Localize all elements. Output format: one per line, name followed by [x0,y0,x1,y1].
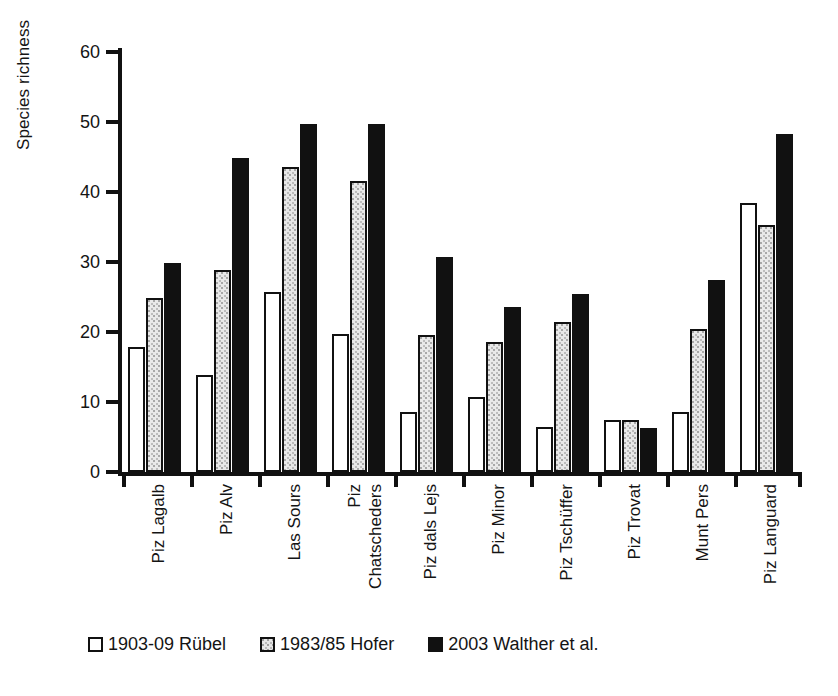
x-category-label-line: Piz dals Lejs [421,484,440,579]
legend-item[interactable]: 1903-09 Rübel [88,634,226,655]
bar [690,329,707,473]
bar [740,203,757,473]
x-tick-mark [394,476,398,487]
legend-item[interactable]: 1983/85 Hofer [260,634,394,655]
x-category-label-line: Piz Alv [217,484,236,535]
bar-group [122,52,190,472]
bar [776,134,793,472]
bar [368,124,385,472]
bar [536,427,553,472]
bar [418,335,435,472]
bar-group [598,52,666,472]
bar [128,347,145,472]
bar [350,181,367,472]
bar-group [462,52,530,472]
bar-groups [122,52,802,472]
y-tick-label-50: 50 [48,112,100,133]
bar-group [734,52,802,472]
x-tick-mark [598,476,602,487]
x-category-label: Las Sours [284,484,305,614]
legend-label: 1903-09 Rübel [108,634,226,655]
bar [400,412,417,472]
bar [758,225,775,472]
x-category-label-line: Chatscheders [365,484,386,614]
legend-label: 2003 Walther et al. [448,634,598,655]
x-category-label: Piz Languard [760,484,781,614]
bar [146,298,163,472]
x-category-label: Piz Tschüffer [556,484,577,614]
legend-swatch-icon [88,637,103,652]
bar [604,420,621,472]
x-category-label-line: Piz Minor [489,484,508,555]
bar [486,342,503,472]
bar [708,280,725,472]
x-tick-mark [734,476,738,487]
x-tick-mark [326,476,330,487]
legend-label: 1983/85 Hofer [280,634,394,655]
x-category-label-line: Piz Tschüffer [557,484,576,581]
bar [572,294,589,473]
y-tick-label-60: 60 [48,42,100,63]
x-category-label-line: Piz [345,484,364,508]
bar-group [394,52,462,472]
y-tick-label-30: 30 [48,252,100,273]
y-tick-label-0: 0 [48,462,100,483]
bar [554,322,571,473]
x-tick-mark [190,476,194,487]
bar [504,307,521,472]
x-category-label-line: Piz Languard [761,484,780,584]
x-tick-mark [798,476,802,487]
bar [282,167,299,472]
bar [264,292,281,472]
x-category-label-line: Las Sours [285,484,304,561]
x-axis-category-labels: Piz LagalbPiz AlvLas SoursPizChatscheder… [122,492,802,617]
bar-group [258,52,326,472]
x-category-label-line: Munt Pers [693,484,712,561]
x-tick-mark [666,476,670,487]
x-category-label: PizChatscheders [344,484,386,614]
x-tick-mark [258,476,262,487]
bar [672,412,689,472]
bar [164,263,181,472]
bar [640,428,657,472]
x-category-label-line: Piz Trovat [625,484,644,560]
bar-group [326,52,394,472]
bar [196,375,213,472]
bar-chart: Species richness 0102030405060 Piz Lagal… [0,0,838,696]
bar-group [666,52,734,472]
chart-legend: 1903-09 Rübel1983/85 Hofer2003 Walther e… [88,634,599,655]
x-category-label: Munt Pers [692,484,713,614]
x-category-label: Piz Trovat [624,484,645,614]
x-category-label: Piz Minor [488,484,509,614]
legend-swatch-icon [428,637,443,652]
bar-group [530,52,598,472]
x-category-label-line: Piz Lagalb [149,484,168,563]
bar [622,420,639,472]
x-tick-mark [122,476,126,487]
bar [300,124,317,472]
x-category-label: Piz Alv [216,484,237,614]
y-tick-label-20: 20 [48,322,100,343]
bar-group [190,52,258,472]
x-category-label: Piz dals Lejs [420,484,441,614]
bar [214,270,231,472]
bar [468,397,485,472]
legend-item[interactable]: 2003 Walther et al. [428,634,598,655]
x-tick-mark [530,476,534,487]
y-axis-title: Species richness [14,0,34,150]
x-tick-mark [462,476,466,487]
bar [232,158,249,472]
bar [332,334,349,472]
y-tick-label-40: 40 [48,182,100,203]
x-category-label: Piz Lagalb [148,484,169,614]
y-tick-label-10: 10 [48,392,100,413]
bar [436,257,453,472]
legend-swatch-icon [260,637,275,652]
